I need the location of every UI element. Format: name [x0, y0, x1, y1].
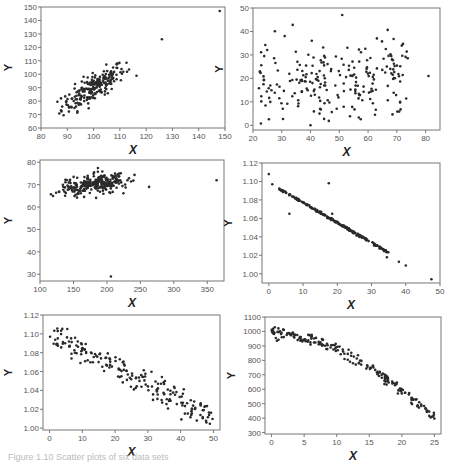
- y-tick-label: 400: [248, 414, 262, 423]
- y-tick-label: 500: [248, 400, 262, 409]
- y-tick-label: 1000: [243, 327, 261, 336]
- y-tick-label: 700: [248, 371, 262, 380]
- x-tick-label: 15: [365, 438, 374, 447]
- y-tick-label: 900: [248, 342, 262, 351]
- y-tick-label: 300: [248, 429, 262, 438]
- scatter-plot-6: 051015202530040050060070080090010001100X…: [0, 0, 449, 462]
- y-tick-label: 1100: [244, 313, 262, 322]
- x-tick-label: 0: [269, 438, 274, 447]
- x-tick-label: 25: [430, 438, 439, 447]
- y-tick-label: 600: [248, 385, 262, 394]
- figure-caption: Figure 1.10 Scatter plots of six data se…: [8, 452, 169, 462]
- y-tick-label: 800: [248, 356, 262, 365]
- x-axis-label: X: [348, 449, 358, 462]
- data-points: [270, 326, 435, 420]
- x-tick-label: 10: [332, 438, 341, 447]
- y-axis-label: Y: [225, 371, 237, 379]
- x-tick-label: 20: [397, 438, 406, 447]
- x-tick-label: 5: [302, 438, 307, 447]
